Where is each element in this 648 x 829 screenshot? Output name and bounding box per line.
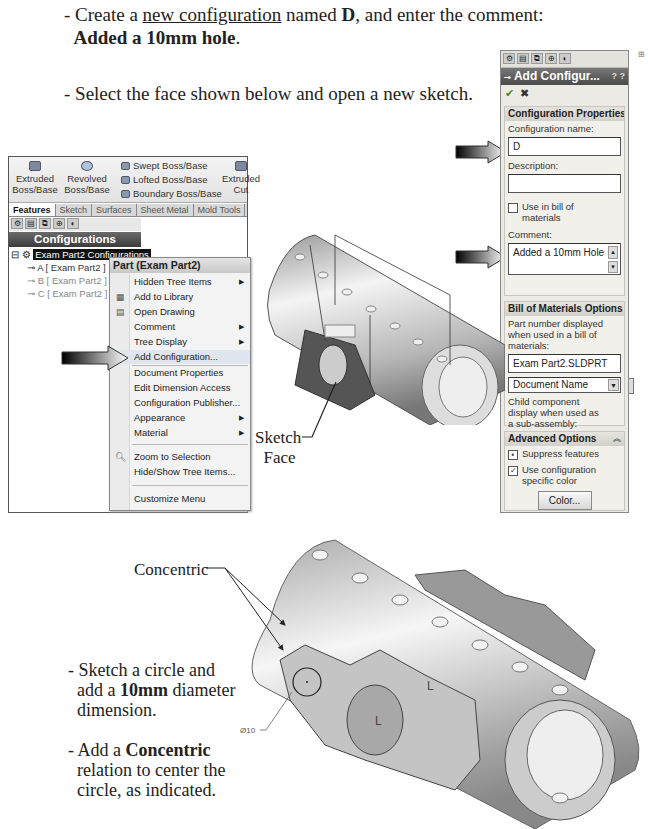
part-model-bottom: L L [235, 530, 648, 829]
lofted-boss-button[interactable]: Lofted Boss/Base [121, 174, 207, 185]
menu-item-hidden-tree-items[interactable]: Hidden Tree Items▶ [110, 275, 250, 289]
svg-text:L: L [427, 679, 434, 693]
menu-item-zoom-to-selection[interactable]: 🔍︎Zoom to Selection [110, 450, 250, 464]
menu-item-document-properties[interactable]: Document Properties [110, 366, 250, 380]
configuration-name-input[interactable]: D [508, 137, 621, 156]
feature-manager-icon[interactable]: ⚙ [11, 218, 23, 229]
instruction-step-2: - Select the face shown below and open a… [64, 82, 473, 105]
lofted-boss-icon [121, 176, 130, 184]
submenu-arrow-icon: ▶ [239, 320, 244, 334]
context-menu-title: Part (Exam Part2) [110, 258, 250, 273]
menu-item-comment[interactable]: Comment▶ [110, 320, 250, 334]
pin-icon[interactable]: ⊞ [638, 50, 645, 59]
menu-item-material[interactable]: Material▶ [110, 426, 250, 440]
scroll-up-icon[interactable]: ▲ [608, 246, 618, 259]
configurations-header: Configurations [9, 232, 141, 247]
extruded-boss-button[interactable]: Extruded Boss/Base [11, 161, 59, 195]
part-icon: ⚙ [22, 249, 31, 260]
scroll-down-icon[interactable]: ▼ [608, 261, 618, 273]
help-icon[interactable]: ? ? [612, 68, 629, 85]
add-configuration-icon: ⊸ [504, 73, 511, 82]
part-number-input[interactable]: Exam Part2.SLDPRT [508, 354, 621, 373]
diameter-dimension[interactable]: Ø10 [240, 726, 255, 735]
use-in-bom-checkbox[interactable]: Use in bill of materials [505, 199, 624, 225]
drawing-icon: ▤ [115, 307, 126, 317]
property-manager-icon[interactable]: ▤ [25, 218, 37, 229]
svg-text:L: L [375, 714, 382, 728]
tab-sketch[interactable]: Sketch [56, 204, 93, 216]
command-manager-tabs: Features Sketch Surfaces Sheet Metal Mol… [9, 204, 247, 217]
tab-sheet-metal[interactable]: Sheet Metal [137, 204, 194, 216]
context-menu: Part (Exam Part2) Hidden Tree Items▶ ▦Ad… [109, 257, 251, 511]
extruded-boss-icon [29, 161, 41, 171]
property-manager-icon[interactable]: ▤ [517, 53, 529, 64]
menu-item-add-configuration[interactable]: ⊸Add Configuration... [110, 350, 250, 364]
menu-item-hide-show-tree-items[interactable]: Hide/Show Tree Items... [110, 465, 250, 479]
comment-text: Added a 10mm hole [74, 27, 236, 48]
extruded-cut-icon [235, 161, 247, 171]
manager-tabs: ⚙ ▤ ⧉ ⊕ ◐ [9, 218, 141, 231]
part-number-source-dropdown[interactable]: Document Name ▼ [508, 377, 621, 393]
collapse-chevron-icon[interactable]: ︽ [613, 432, 624, 446]
part-model-top [255, 215, 505, 425]
tab-mold-tools[interactable]: Mold Tools [194, 204, 246, 216]
menu-item-open-drawing[interactable]: ▤Open Drawing [110, 305, 250, 319]
panel-resize-handle[interactable] [629, 378, 634, 394]
config-icon: ⊸ [27, 275, 35, 286]
collapse-icon[interactable]: ⊟ [11, 249, 19, 260]
submenu-arrow-icon: ▶ [239, 426, 244, 440]
sketch-face-leader [300, 380, 340, 440]
dropdown-arrow-icon[interactable]: ▼ [608, 379, 619, 391]
ok-cancel-bar: ✔ ✖ [501, 85, 628, 101]
config-item-a[interactable]: ⊸ A [ Exam Part2 ] [27, 262, 106, 273]
configuration-manager-icon[interactable]: ⧉ [531, 53, 543, 64]
revolved-boss-button[interactable]: Revolved Boss/Base [63, 161, 111, 195]
dimxpert-icon[interactable]: ⊕ [545, 53, 557, 64]
menu-item-configuration-publisher[interactable]: Configuration Publisher... [110, 396, 250, 410]
instruction-step-3: - Sketch a circle and add a 10mm diamete… [68, 660, 235, 720]
command-manager-toolbar: Extruded Boss/Base Revolved Boss/Base Sw… [9, 157, 247, 203]
sketch-face-label: Sketch Face [255, 428, 301, 468]
cancel-button[interactable]: ✖ [520, 87, 529, 99]
extruded-cut-button[interactable]: Extruded Cut [221, 161, 261, 195]
menu-separator [132, 444, 248, 445]
use-specific-color-checkbox[interactable]: ✓ Use configuration specific color [505, 462, 624, 488]
menu-item-edit-dimension-access[interactable]: Edit Dimension Access [110, 381, 250, 395]
menu-item-appearance[interactable]: Appearance▶ [110, 411, 250, 425]
pointer-arrow-add-configuration [60, 345, 130, 371]
swept-boss-button[interactable]: Swept Boss/Base [121, 160, 207, 171]
menu-item-customize-menu[interactable]: Customize Menu [110, 492, 250, 506]
section-header[interactable]: Bill of Materials Options︽ [505, 302, 624, 316]
menu-item-add-to-library[interactable]: ▦Add to Library [110, 290, 250, 304]
concentric-label: Concentric [134, 558, 209, 581]
description-input[interactable] [508, 174, 621, 193]
manager-tabs: ⚙ ▤ ⧉ ⊕ ◐ [501, 51, 628, 68]
section-header[interactable]: Advanced Options︽ [505, 432, 624, 446]
comment-textarea[interactable]: Added a 10mm Hole ▲ ▼ [508, 243, 621, 275]
dimxpert-icon[interactable]: ⊕ [53, 218, 65, 229]
tab-features[interactable]: Features [9, 204, 56, 216]
menu-item-tree-display[interactable]: Tree Display▶ [110, 335, 250, 349]
zoom-icon: 🔍︎ [115, 452, 126, 462]
add-configuration-property-manager: ⚙ ▤ ⧉ ⊕ ◐ ⊸ Add Configur... ? ? ✔ ✖ Conf… [500, 50, 629, 513]
submenu-arrow-icon: ▶ [239, 411, 244, 425]
config-icon: ⊸ [27, 288, 35, 299]
configuration-manager-icon[interactable]: ⧉ [39, 218, 51, 229]
swept-boss-icon [121, 162, 130, 170]
boundary-boss-button[interactable]: Boundary Boss/Base [121, 188, 222, 199]
config-item-b[interactable]: ⊸ B [ Exam Part2 ] [27, 275, 107, 286]
tab-surfaces[interactable]: Surfaces [92, 204, 137, 216]
ok-button[interactable]: ✔ [505, 87, 514, 99]
color-button[interactable]: Color... [538, 491, 592, 510]
boundary-boss-icon [121, 190, 130, 198]
display-manager-icon[interactable]: ◐ [559, 53, 571, 64]
submenu-arrow-icon: ▶ [239, 275, 244, 289]
menu-separator [132, 485, 248, 486]
config-item-c[interactable]: ⊸ C [ Exam Part2 ] [27, 288, 107, 299]
dimension-leader [258, 690, 298, 735]
display-manager-icon[interactable]: ◐ [67, 218, 79, 229]
suppress-features-checkbox[interactable]: ▪ Suppress features [505, 446, 624, 462]
revolved-boss-icon [81, 161, 93, 171]
section-header[interactable]: Configuration Properties︽ [505, 107, 624, 121]
feature-manager-icon[interactable]: ⚙ [503, 53, 515, 64]
